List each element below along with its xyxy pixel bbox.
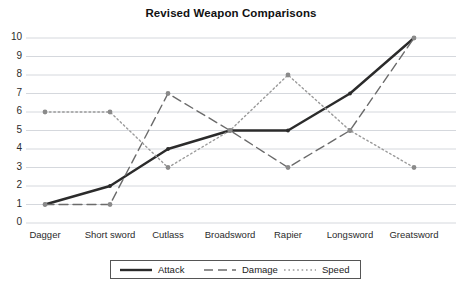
data-point-marker: [108, 184, 112, 188]
chart-container: Revised Weapon Comparisons 012345678910 …: [0, 0, 462, 292]
data-point-marker: [228, 128, 233, 133]
data-point-marker: [108, 110, 113, 115]
data-point-marker: [412, 165, 417, 170]
data-point-marker: [43, 110, 48, 115]
data-point-marker: [286, 165, 291, 170]
legend-item-damage[interactable]: Damage: [203, 261, 278, 278]
y-axis-tick-label: 7: [0, 87, 22, 98]
legend-label: Speed: [322, 264, 349, 275]
chart-legend: AttackDamageSpeed: [110, 260, 361, 279]
y-axis-tick-label: 1: [0, 198, 22, 209]
plot-area: [0, 0, 462, 292]
y-axis-tick-label: 0: [0, 216, 22, 227]
data-point-marker: [108, 202, 113, 207]
y-axis-tick-label: 3: [0, 161, 22, 172]
data-point-marker: [166, 147, 170, 151]
solid-line-swatch: [119, 265, 153, 275]
x-axis-tick-label: Cutlass: [152, 229, 184, 240]
dashed-line-swatch: [203, 265, 237, 275]
y-axis-tick-label: 6: [0, 105, 22, 116]
legend-label: Attack: [158, 264, 184, 275]
series-line-speed: [45, 75, 414, 168]
y-axis-tick-label: 9: [0, 50, 22, 61]
x-axis-tick-label: Longsword: [327, 229, 373, 240]
y-axis-tick-label: 5: [0, 124, 22, 135]
data-point-marker: [348, 128, 353, 133]
series-line-attack: [45, 38, 414, 205]
data-point-marker: [43, 202, 48, 207]
data-point-marker: [348, 92, 352, 96]
data-point-marker: [166, 165, 171, 170]
y-axis-tick-label: 8: [0, 68, 22, 79]
series-group: [45, 38, 414, 205]
series-line-damage: [45, 38, 414, 205]
x-axis-tick-label: Greatsword: [389, 229, 438, 240]
x-axis-tick-label: Rapier: [274, 229, 302, 240]
data-point-marker: [286, 73, 291, 78]
legend-item-speed[interactable]: Speed: [283, 261, 349, 278]
x-axis-tick-label: Broadsword: [205, 229, 256, 240]
x-axis-tick-label: Short sword: [85, 229, 136, 240]
data-point-marker: [166, 91, 171, 96]
y-axis-tick-label: 4: [0, 142, 22, 153]
markers-group: [43, 36, 417, 207]
y-axis-tick-label: 10: [0, 31, 22, 42]
x-axis-tick-label: Dagger: [29, 229, 60, 240]
y-axis-tick-label: 2: [0, 179, 22, 190]
legend-item-attack[interactable]: Attack: [119, 261, 184, 278]
data-point-marker: [412, 36, 417, 41]
legend-label: Damage: [242, 264, 278, 275]
data-point-marker: [286, 129, 290, 133]
dotted-line-swatch: [283, 265, 317, 275]
